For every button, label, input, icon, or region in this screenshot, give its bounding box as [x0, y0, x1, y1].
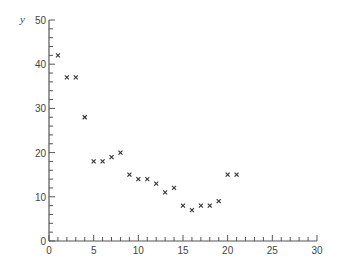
data-point-x-marker	[217, 199, 221, 203]
x-axis-ticks: 051015202530	[46, 235, 323, 256]
y-tick-label: 40	[35, 59, 47, 70]
data-point-x-marker	[92, 159, 96, 163]
y-axis-label: y	[19, 13, 25, 25]
data-point-x-marker	[208, 204, 212, 208]
x-tick-label: 5	[91, 245, 97, 256]
data-point-x-marker	[181, 204, 185, 208]
data-point-x-marker	[172, 186, 176, 190]
scatter-chart: y 01020304050 051015202530	[0, 0, 340, 271]
y-axis-ticks: 01020304050	[35, 15, 55, 247]
x-tick-label: 20	[222, 245, 234, 256]
y-tick-label: 20	[35, 148, 47, 159]
data-point-x-marker	[110, 155, 114, 159]
data-point-x-marker	[145, 177, 149, 181]
y-tick-label: 30	[35, 103, 47, 114]
data-point-x-marker	[118, 151, 122, 155]
data-point-x-marker	[190, 208, 194, 212]
data-point-x-marker	[235, 173, 239, 177]
data-point-x-marker	[56, 53, 60, 57]
data-point-x-marker	[65, 75, 69, 79]
data-point-x-marker	[136, 177, 140, 181]
axes	[49, 20, 317, 241]
data-point-x-marker	[226, 173, 230, 177]
y-tick-label: 50	[35, 15, 47, 26]
y-tick-label: 10	[35, 192, 47, 203]
x-tick-label: 10	[133, 245, 145, 256]
x-tick-label: 30	[311, 245, 323, 256]
data-points	[56, 53, 239, 212]
data-point-x-marker	[83, 115, 87, 119]
x-tick-label: 0	[46, 245, 52, 256]
data-point-x-marker	[154, 182, 158, 186]
data-point-x-marker	[163, 190, 167, 194]
data-point-x-marker	[74, 75, 78, 79]
data-point-x-marker	[127, 173, 131, 177]
data-point-x-marker	[101, 159, 105, 163]
x-tick-label: 25	[267, 245, 279, 256]
data-point-x-marker	[199, 204, 203, 208]
x-tick-label: 15	[177, 245, 189, 256]
